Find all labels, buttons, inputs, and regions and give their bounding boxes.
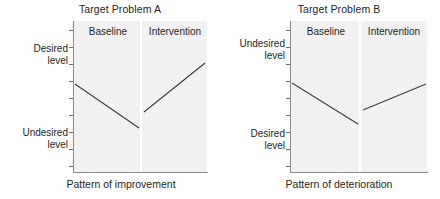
panel-b-phase-divider — [359, 21, 361, 172]
y-axis-tick — [69, 149, 73, 150]
chart-panel-b: Target Problem B Baseline Intervention U… — [220, 0, 440, 199]
y-axis-tick — [69, 47, 73, 48]
y-axis-tick — [69, 166, 73, 167]
chart-panel-a: Target Problem A Baseline Intervention D… — [0, 0, 220, 199]
y-axis-tick — [286, 115, 290, 116]
y-axis-tick — [69, 98, 73, 99]
panel-a-y-top-line1: Desired — [34, 43, 68, 54]
panel-a-caption: Pattern of improvement — [0, 178, 220, 190]
y-axis-tick — [286, 64, 290, 65]
panel-b-y-top-line2: level — [264, 50, 285, 61]
figure-container: Target Problem A Baseline Intervention D… — [0, 0, 440, 199]
y-axis-tick — [286, 81, 290, 82]
panel-b-y-top-line1: Undesired — [239, 38, 285, 49]
panel-a-phase-label-intervention: Intervention — [143, 26, 207, 37]
y-axis-tick — [286, 132, 290, 133]
panel-a-y-axis — [73, 21, 74, 173]
y-axis-tick — [69, 115, 73, 116]
y-axis-tick — [286, 47, 290, 48]
panel-a-title: Target Problem A — [0, 3, 220, 15]
panel-b-phase-label-baseline: Baseline — [295, 26, 357, 37]
y-axis-tick — [69, 30, 73, 31]
panel-b-y-axis-label-top: Undesired level — [213, 38, 285, 61]
panel-a-y-bottom-line2: level — [47, 139, 68, 150]
y-axis-tick — [286, 30, 290, 31]
panel-a-y-axis-label-top: Desired level — [0, 43, 68, 66]
panel-a-y-axis-label-bottom: Undesired level — [0, 127, 68, 150]
y-axis-tick — [69, 132, 73, 133]
y-axis-tick — [69, 64, 73, 65]
panel-a-y-top-line2: level — [47, 55, 68, 66]
panel-b-y-bottom-line2: level — [264, 140, 285, 151]
panel-b-caption: Pattern of deterioration — [220, 178, 440, 190]
panel-a-y-bottom-line1: Undesired — [22, 127, 68, 138]
panel-a-phase-label-baseline: Baseline — [77, 26, 139, 37]
y-axis-tick — [286, 98, 290, 99]
y-axis-tick — [69, 81, 73, 82]
panel-b-y-bottom-line1: Desired — [251, 128, 285, 139]
y-axis-tick — [286, 166, 290, 167]
y-axis-tick — [286, 149, 290, 150]
panel-b-x-axis — [290, 172, 428, 173]
panel-b-y-axis-label-bottom: Desired level — [213, 128, 285, 151]
panel-a-phase-divider — [140, 21, 142, 172]
panel-b-title: Target Problem B — [220, 3, 440, 15]
panel-a-x-axis — [73, 172, 208, 173]
panel-b-y-axis — [290, 21, 291, 173]
panel-b-phase-label-intervention: Intervention — [362, 26, 426, 37]
